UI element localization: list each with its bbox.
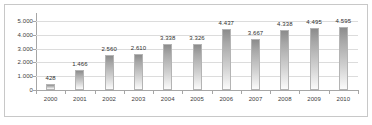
bar-value-label: 4.495 [306, 19, 322, 25]
y-axis-tick-mark [33, 76, 36, 77]
bar [193, 44, 202, 90]
bar-value-label: 2.610 [131, 45, 147, 51]
x-axis-tick-mark [299, 91, 300, 94]
x-axis-tick-label: 2002 [102, 96, 116, 102]
y-axis-tick-label: 5.000 [17, 18, 33, 24]
y-axis-tick-mark [33, 35, 36, 36]
bar [134, 54, 143, 90]
bar [280, 30, 289, 90]
bar [310, 28, 319, 90]
x-axis-line [36, 90, 359, 91]
bar-value-label: 4.595 [336, 18, 352, 24]
x-axis-tick-mark [270, 91, 271, 94]
bar-value-label: 4.338 [277, 21, 293, 27]
x-axis-tick-mark [212, 91, 213, 94]
x-axis-tick-label: 2001 [73, 96, 87, 102]
x-axis-tick-label: 2008 [278, 96, 292, 102]
y-axis-tick-mark [33, 62, 36, 63]
x-axis-tick-label: 2009 [307, 96, 321, 102]
x-axis-tick-mark [358, 91, 359, 94]
bar [163, 44, 172, 90]
y-axis-tick-label: 4.000 [17, 32, 33, 38]
bar-value-label: 2.560 [101, 46, 117, 52]
x-axis-tick-label: 2000 [44, 96, 58, 102]
y-axis-tick-mark [33, 21, 36, 22]
bar-value-label: 3.667 [248, 30, 264, 36]
y-axis-tick-label: 1.000 [17, 73, 33, 79]
x-axis-tick-mark [329, 91, 330, 94]
bar [251, 39, 260, 90]
bar-value-label: 3.326 [189, 35, 205, 41]
chart-figure: 01.0002.0003.0004.0005.000 42820001.4662… [0, 0, 372, 125]
y-axis-tick-labels: 01.0002.0003.0004.0005.000 [0, 14, 33, 90]
y-axis-tick-label: 2.000 [17, 59, 33, 65]
bar-value-label: 4.437 [219, 20, 235, 26]
bar-value-label: 428 [45, 75, 55, 81]
x-axis-tick-label: 2004 [161, 96, 175, 102]
bar [222, 29, 231, 90]
plot-area [36, 14, 358, 90]
x-axis-tick-mark [182, 91, 183, 94]
x-axis-tick-label: 2007 [249, 96, 263, 102]
bar-value-label: 3.338 [160, 35, 176, 41]
x-axis-tick-mark [153, 91, 154, 94]
x-axis-tick-label: 2003 [132, 96, 146, 102]
bar [105, 55, 114, 90]
bar [46, 84, 55, 90]
x-axis-tick-mark [95, 91, 96, 94]
x-axis-tick-mark [241, 91, 242, 94]
x-axis-tick-label: 2010 [336, 96, 350, 102]
y-axis-tick-mark [33, 49, 36, 50]
bar [75, 70, 84, 90]
x-axis-tick-mark [65, 91, 66, 94]
x-axis-tick-mark [124, 91, 125, 94]
x-axis-tick-label: 2005 [190, 96, 204, 102]
y-axis-tick-label: 3.000 [17, 46, 33, 52]
x-axis-tick-mark [36, 91, 37, 94]
x-axis-tick-label: 2006 [219, 96, 233, 102]
bar [339, 27, 348, 90]
bar-value-label: 1.466 [72, 61, 88, 67]
